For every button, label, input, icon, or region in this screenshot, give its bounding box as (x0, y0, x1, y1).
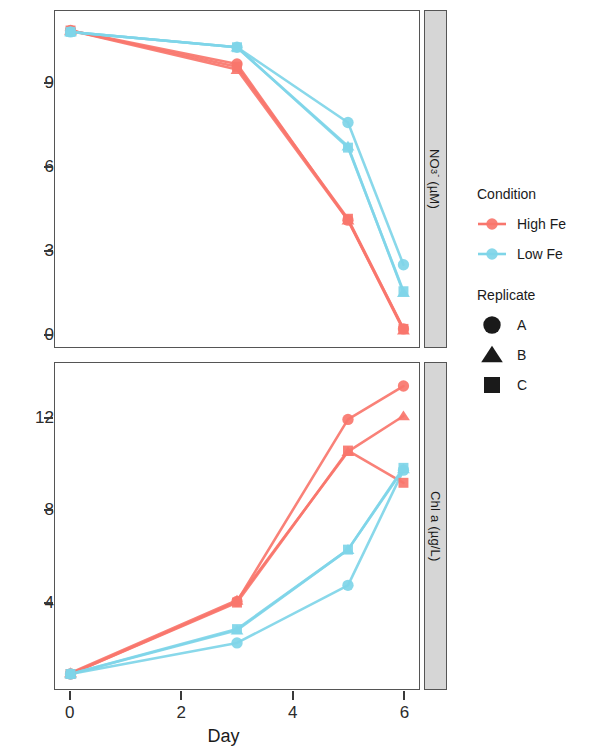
legend-item-replicate-c[interactable]: C (477, 370, 594, 400)
data-point (342, 580, 353, 591)
data-point (343, 446, 353, 456)
legend-label: A (517, 317, 526, 333)
x-tick-mark (180, 691, 182, 700)
x-tick-label: 2 (176, 703, 185, 723)
x-tick-mark (292, 691, 294, 700)
panel-chla (54, 362, 420, 690)
y-axis-chla: 4812 (0, 362, 54, 690)
data-point (342, 414, 353, 425)
data-point (343, 545, 353, 555)
circle-icon (477, 310, 507, 340)
legend-key-icon (477, 239, 507, 269)
data-point (398, 286, 408, 296)
strip-no3: NO3- (µM) (424, 10, 447, 348)
x-tick-label: 4 (288, 703, 297, 723)
data-point (232, 62, 242, 72)
legend-replicate: Replicate ABC (477, 287, 594, 400)
legend-item-replicate-b[interactable]: B (477, 340, 594, 370)
data-point (342, 117, 353, 128)
plot-area-no3 (55, 11, 419, 347)
series-line (71, 31, 404, 331)
legend-label: B (517, 347, 526, 363)
data-point (343, 214, 353, 224)
legend-replicate-title: Replicate (477, 287, 594, 303)
x-tick-mark (403, 691, 405, 700)
panel-no3 (54, 10, 420, 348)
data-point (398, 380, 409, 391)
data-point (398, 259, 409, 270)
data-point (398, 463, 408, 473)
data-point (398, 324, 408, 334)
x-tick-mark (69, 691, 71, 700)
y-tick-mark (44, 417, 53, 419)
data-point (232, 624, 242, 634)
strip-label-chla: Chl a (µg/L) (428, 491, 443, 562)
data-point (397, 410, 410, 420)
square-icon (477, 370, 507, 400)
series-line (71, 31, 404, 329)
legend-condition-title: Condition (477, 186, 594, 202)
x-axis-title: Day (0, 726, 447, 747)
legend-key-icon (477, 209, 507, 239)
data-point (232, 598, 242, 608)
data-point (231, 637, 242, 648)
x-tick-label: 0 (65, 703, 74, 723)
chart-figure: 0369 NO3- (µM) 4812 Chl a (µg/L) Day Con… (0, 0, 594, 750)
data-point (343, 143, 353, 153)
triangle-icon (477, 340, 507, 370)
data-point (66, 27, 76, 37)
data-point (66, 669, 76, 679)
series-line (71, 31, 404, 329)
legend-label: High Fe (517, 216, 566, 232)
legend-item-replicate-a[interactable]: A (477, 310, 594, 340)
data-point (232, 42, 242, 52)
y-tick-mark (44, 82, 53, 84)
legend-label: Low Fe (517, 246, 563, 262)
y-tick-mark (44, 166, 53, 168)
y-tick-mark (44, 602, 53, 604)
data-point (398, 478, 408, 488)
legend-item-low-fe[interactable]: Low Fe (477, 239, 594, 269)
y-tick-mark (44, 250, 53, 252)
legend-condition: Condition High FeLow Fe (477, 186, 594, 269)
legend-item-high-fe[interactable]: High Fe (477, 209, 594, 239)
plot-area-chla (55, 363, 419, 689)
legend-label: C (517, 377, 527, 393)
y-axis-no3: 0369 (0, 10, 54, 348)
x-tick-label: 6 (400, 703, 409, 723)
y-tick-mark (44, 509, 53, 511)
y-tick-mark (44, 334, 53, 336)
strip-chla: Chl a (µg/L) (424, 362, 447, 690)
strip-label-no3: NO3- (µM) (427, 149, 444, 209)
legend: Condition High FeLow Fe Replicate ABC (477, 186, 594, 418)
